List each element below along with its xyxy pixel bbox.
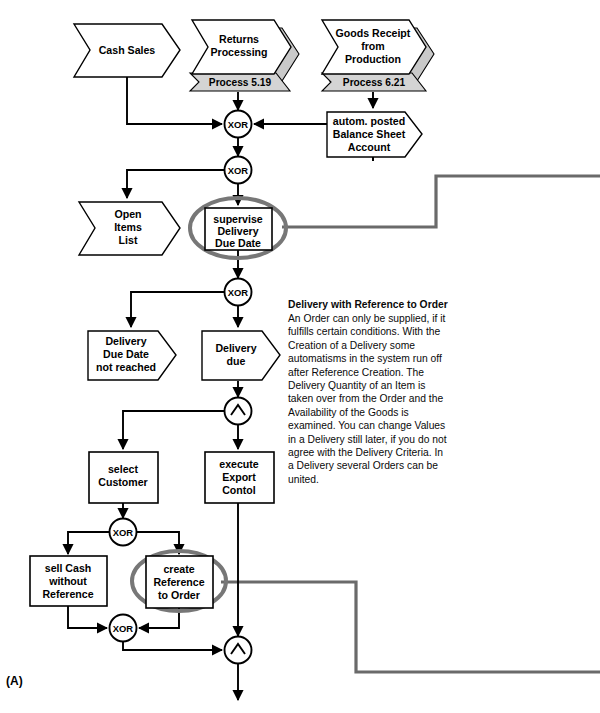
event-delivery-due-line1: Delivery — [215, 342, 256, 354]
event-open-items-line3: List — [119, 234, 138, 246]
event-goods-receipt-line3: Production — [345, 53, 401, 65]
event-returns-processing-line1: Returns — [219, 33, 259, 45]
event-cash-sales-label: Cash Sales — [99, 44, 156, 56]
connector-xor-3[interactable]: XOR — [225, 279, 252, 306]
function-supervise-line1: supervise — [213, 213, 263, 225]
event-goods-receipt-line2: from — [361, 40, 385, 52]
connector-and-2[interactable] — [225, 637, 252, 664]
function-create-reference-line3: to Order — [158, 589, 200, 601]
connector-and-2-circle — [225, 637, 252, 664]
connector-xor-2-label: XOR — [228, 165, 249, 176]
event-not-reached-line1: Delivery — [105, 335, 146, 347]
function-sell-cash-line3: Reference — [42, 588, 93, 600]
function-create-reference-line2: Reference — [153, 576, 204, 588]
arrow-xor3-to-notreached — [131, 292, 224, 327]
function-export-control-line3: Contol — [222, 484, 256, 496]
event-delivery-due[interactable]: Delivery due — [202, 331, 280, 380]
arrow-sellcash-to-xor5 — [68, 606, 107, 628]
function-sell-cash-without-reference[interactable]: sell Cash without Reference — [30, 556, 107, 606]
event-balance-sheet-account[interactable]: autom. posted Balance Sheet Account — [327, 112, 422, 157]
event-goods-receipt-line1: Goods Receipt — [336, 27, 411, 39]
connector-xor-1[interactable]: XOR — [225, 111, 252, 138]
event-not-reached-line3: not reached — [96, 361, 156, 373]
connector-xor-1-label: XOR — [228, 119, 249, 130]
event-balance-sheet-line2: Balance Sheet — [333, 128, 406, 140]
function-sell-cash-line2: without — [48, 575, 87, 587]
function-supervise-line2: Delivery — [217, 225, 258, 237]
event-due-date-not-reached[interactable]: Delivery Due Date not reached — [88, 331, 176, 380]
arrow-and1-to-selectcustomer — [123, 411, 224, 449]
event-returns-processing[interactable]: Process 5.19 Returns Processing — [190, 20, 299, 91]
function-supervise-delivery-due-date[interactable]: supervise Delivery Due Date — [190, 198, 286, 258]
connector-xor-4[interactable]: XOR — [110, 519, 137, 546]
event-returns-processing-line2: Processing — [210, 46, 267, 58]
note-delivery-with-reference: Delivery with Reference to Order An Orde… — [288, 298, 450, 486]
arrow-xor2-to-openitems — [127, 170, 224, 198]
function-export-control-line1: execute — [219, 458, 259, 470]
connector-xor-4-label: XOR — [113, 527, 134, 538]
event-cash-sales[interactable]: Cash Sales — [74, 24, 180, 77]
event-balance-sheet-line3: Account — [348, 141, 391, 153]
event-open-items-line2: Items — [114, 221, 142, 233]
create-reference-exit-line — [221, 582, 600, 672]
function-select-customer-line1: select — [108, 463, 139, 475]
connector-and-1-circle — [225, 398, 252, 425]
event-open-items-list[interactable]: Open Items List — [79, 202, 180, 255]
function-create-reference-line1: create — [163, 563, 194, 575]
arrow-xor4-to-sellcash — [68, 532, 109, 554]
function-select-customer-line2: Customer — [98, 476, 147, 488]
arrow-xor5-to-and2 — [123, 642, 222, 650]
connector-and-1[interactable] — [225, 398, 252, 425]
supervise-exit-line — [282, 176, 600, 227]
note-body: An Order can only be supplied, if it ful… — [288, 313, 447, 485]
function-supervise-line3: Due Date — [215, 237, 261, 249]
event-delivery-due-line2: due — [227, 355, 246, 367]
connector-xor-3-label: XOR — [228, 287, 249, 298]
function-select-customer[interactable]: select Customer — [89, 452, 158, 503]
event-not-reached-line2: Due Date — [103, 348, 149, 360]
goods-receipt-ref-label: Process 6.21 — [343, 77, 406, 88]
event-goods-receipt[interactable]: Process 6.21 Goods Receipt from Producti… — [322, 20, 434, 91]
figure-label: (A) — [6, 674, 23, 688]
function-sell-cash-line1: sell Cash — [45, 562, 92, 574]
connector-xor-2[interactable]: XOR — [225, 157, 252, 184]
function-execute-export-control[interactable]: execute Export Contol — [205, 452, 274, 503]
event-balance-sheet-line1: autom. posted — [333, 115, 405, 127]
note-title: Delivery with Reference to Order — [288, 298, 450, 312]
function-create-reference-to-order[interactable]: create Reference to Order — [132, 551, 226, 611]
returns-processing-ref-label: Process 5.19 — [209, 77, 272, 88]
connector-xor-5[interactable]: XOR — [110, 615, 137, 642]
function-export-control-line2: Export — [222, 471, 256, 483]
connector-xor-5-label: XOR — [113, 623, 134, 634]
event-open-items-line1: Open — [114, 208, 141, 220]
